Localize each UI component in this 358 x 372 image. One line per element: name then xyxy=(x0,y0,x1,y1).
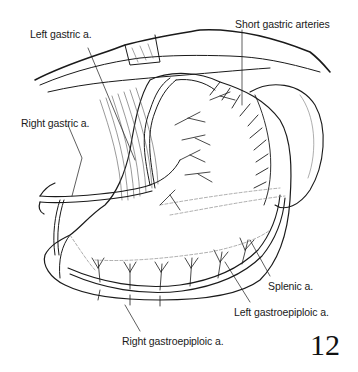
celiac-trunk xyxy=(39,183,152,255)
label-right-gastroepiploic-artery: Right gastroepiploic a. xyxy=(122,335,224,347)
epiploic-branches xyxy=(92,238,254,306)
label-short-gastric-arteries: Short gastric arteries xyxy=(235,18,330,30)
anatomical-figure: Left gastric a. Short gastric arteries R… xyxy=(0,0,358,372)
anterior-gastric-branches xyxy=(160,92,235,210)
lesser-curvature-arteries xyxy=(144,78,215,188)
stomach-outline xyxy=(44,73,291,300)
esophagus xyxy=(125,35,160,65)
figure-number: 12 xyxy=(310,328,340,362)
label-left-gastroepiploic-artery: Left gastroepiploic a. xyxy=(234,306,329,318)
label-splenic-artery: Splenic a. xyxy=(268,280,313,292)
label-left-gastric-artery: Left gastric a. xyxy=(30,28,92,40)
short-gastric-branches xyxy=(210,82,271,205)
spleen xyxy=(250,85,323,208)
label-right-gastric-artery: Right gastric a. xyxy=(21,117,89,129)
